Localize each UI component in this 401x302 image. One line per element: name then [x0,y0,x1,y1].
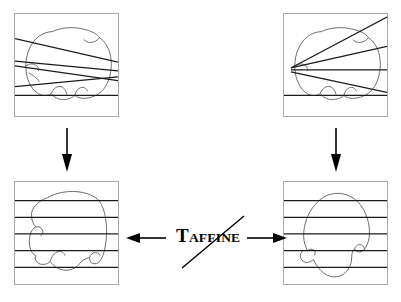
arrow-right-glyph [247,230,287,246]
arrow-left [126,230,166,246]
panel-top-right [283,13,388,117]
panel-bottom-right-drawing [284,182,387,284]
arrow-down-left [56,128,78,172]
label-t-symbol: T [176,225,189,246]
arrow-down-right [325,128,347,172]
panel-top-right-drawing [284,14,387,116]
contour-blob-bottom-left [29,191,106,270]
panel-bottom-left-drawing [15,182,118,284]
label-t-affine: TAFFINE [176,226,240,246]
figure-canvas: TAFFINE [0,0,401,302]
arrow-down-right-glyph [325,128,347,172]
arrow-down-left-glyph [56,128,78,172]
arrow-right [247,230,287,246]
panel-bottom-left [14,181,119,285]
line-family-horizontal-bottom-right [284,201,387,268]
line-family-fan-top-right [284,17,387,95]
panel-top-left-drawing [15,14,118,116]
panel-top-left [14,13,119,117]
arrow-left-glyph [126,230,166,246]
contour-blob-bottom-right [300,193,369,276]
panel-bottom-right [283,181,388,285]
label-affine-subscript: AFFINE [189,230,240,245]
